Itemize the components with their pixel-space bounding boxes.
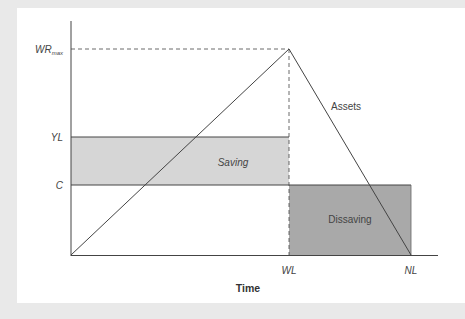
c-label: C: [56, 180, 64, 191]
wrmax-label: WRmax: [35, 44, 64, 56]
x-axis-title: Time: [236, 282, 260, 294]
dissaving-label: Dissaving: [328, 214, 371, 225]
saving-label: Saving: [218, 157, 249, 168]
assets-label: Assets: [331, 101, 361, 112]
life-cycle-diagram: WRmax YL C WL NL Time Saving Dissaving A…: [0, 0, 465, 319]
nl-label: NL: [405, 265, 418, 276]
wl-label: WL: [282, 265, 297, 276]
yl-label: YL: [51, 132, 63, 143]
saving-region: [71, 137, 289, 185]
